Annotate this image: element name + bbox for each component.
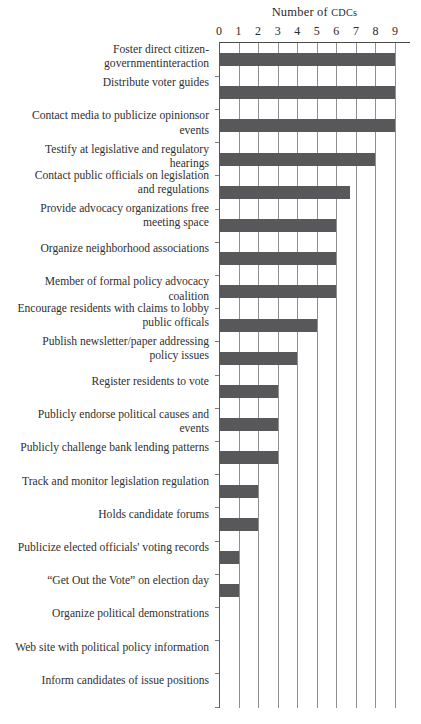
x-tick-label-4: 4	[288, 24, 306, 38]
chart-row: Web site with political policy informati…	[0, 641, 421, 674]
chart-row: Organize political demonstrations	[0, 607, 421, 640]
bar	[219, 385, 278, 398]
bar	[219, 551, 239, 564]
bar	[219, 418, 278, 431]
bar	[219, 485, 258, 498]
category-label: Track and monitor legislation regulation	[9, 475, 209, 489]
chart-title: Number of CDCs	[219, 5, 410, 20]
category-label: Publicly challenge bank lending patterns	[9, 441, 209, 455]
x-tick-label-5: 5	[308, 24, 326, 38]
category-label: Distribute voter guides	[9, 76, 209, 90]
chart-row: Track and monitor legislation regulation	[0, 475, 421, 508]
chart-row: Holds candidate forums	[0, 508, 421, 541]
category-label: Encourage residents with claims to lobby…	[9, 302, 209, 330]
x-tick-label-8: 8	[366, 24, 384, 38]
bar	[219, 186, 350, 199]
x-tick-label-6: 6	[327, 24, 345, 38]
category-label: Contact public officials on legislation …	[9, 169, 209, 197]
bar	[219, 219, 336, 232]
category-label: Provide advocacy organizations free meet…	[9, 202, 209, 230]
category-label: Contact media to publicize opinionsor ev…	[9, 109, 209, 137]
category-label: Testify at legislative and regulatory he…	[9, 143, 209, 171]
x-axis-tick-labels: 0123456789	[0, 24, 421, 40]
bar	[219, 252, 336, 265]
category-label: Organize neighborhood associations	[9, 242, 209, 256]
bar	[219, 319, 317, 332]
x-tick-label-1: 1	[230, 24, 248, 38]
bar	[219, 285, 336, 298]
bar	[219, 153, 375, 166]
chart-title-smallcaps: CDCs	[331, 7, 357, 18]
category-label: Publicly endorse political causes and ev…	[9, 408, 209, 436]
category-label: Organize political demonstrations	[9, 607, 209, 621]
chart-row: Organize neighborhood associations	[0, 242, 421, 275]
bar-chart: Number of CDCs 0123456789 Foster direct …	[0, 0, 421, 724]
chart-row: Register residents to vote	[0, 375, 421, 408]
bar	[219, 518, 258, 531]
bar	[219, 86, 395, 99]
category-label: Member of formal policy advocacy coaliti…	[9, 275, 209, 303]
chart-row: Publicly challenge bank lending patterns	[0, 441, 421, 474]
chart-row: Publicize elected officials' voting reco…	[0, 541, 421, 574]
category-label: Foster direct citizen-governmentinteract…	[9, 43, 209, 71]
chart-row: Provide advocacy organizations free meet…	[0, 209, 421, 242]
chart-row: Foster direct citizen-governmentinteract…	[0, 43, 421, 76]
category-label: Register residents to vote	[9, 375, 209, 389]
bar	[219, 352, 297, 365]
category-label: Web site with political policy informati…	[9, 641, 209, 655]
chart-row: “Get Out the Vote” on election day	[0, 574, 421, 607]
x-tick-label-0: 0	[210, 24, 228, 38]
category-label: “Get Out the Vote” on election day	[9, 574, 209, 588]
chart-row: Distribute voter guides	[0, 76, 421, 109]
x-tick-label-7: 7	[347, 24, 365, 38]
x-tick-label-2: 2	[249, 24, 267, 38]
category-label: Inform candidates of issue positions	[9, 674, 209, 688]
x-tick-label-3: 3	[269, 24, 287, 38]
chart-row: Publicly endorse political causes and ev…	[0, 408, 421, 441]
chart-row: Publish newsletter/paper addressing poli…	[0, 342, 421, 375]
chart-row: Inform candidates of issue positions	[0, 674, 421, 707]
bar	[219, 53, 395, 66]
category-label: Holds candidate forums	[9, 508, 209, 522]
chart-title-prefix: Number of	[272, 5, 332, 19]
chart-row: Contact media to publicize opinionsor ev…	[0, 109, 421, 142]
category-label: Publish newsletter/paper addressing poli…	[9, 335, 209, 363]
bar	[219, 451, 278, 464]
chart-rows: Foster direct citizen-governmentinteract…	[0, 43, 421, 708]
bar	[219, 119, 395, 132]
x-tick-label-9: 9	[386, 24, 404, 38]
category-label: Publicize elected officials' voting reco…	[9, 541, 209, 555]
bar	[219, 584, 239, 597]
